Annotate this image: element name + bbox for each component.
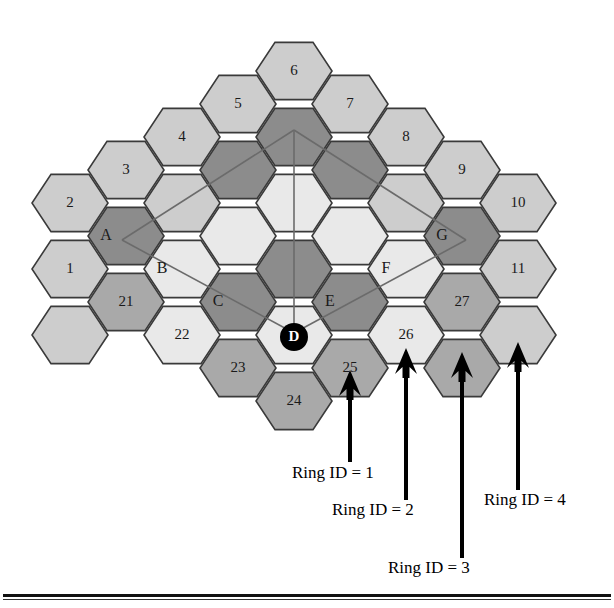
hexagon-number-label: 3 xyxy=(122,161,130,177)
hexagon-number-label: 7 xyxy=(346,95,354,111)
hexagon-number-label: 24 xyxy=(287,392,303,408)
hexagon-number-label: 1 xyxy=(66,260,74,276)
hexagon-number-label: 8 xyxy=(402,128,410,144)
hexagon-number-label: 11 xyxy=(511,260,525,276)
hexagon-number-label: 26 xyxy=(399,326,415,342)
hexagon-letter-label: C xyxy=(213,292,224,309)
hexagon-letter-label: E xyxy=(325,292,335,309)
center-cell-label: D xyxy=(289,328,300,344)
footer-rule xyxy=(3,594,611,597)
hexagon-number-label: 23 xyxy=(231,359,246,375)
hexagon-number-label: 2 xyxy=(66,194,74,210)
hexagon-number-label: 4 xyxy=(178,128,186,144)
hexagon-number-label: 25 xyxy=(343,359,358,375)
hexagon-letter-label: A xyxy=(100,226,112,243)
hexagon-number-label: 22 xyxy=(175,326,190,342)
hexagon-number-label: 10 xyxy=(511,194,526,210)
ring-id-label-ring2: Ring ID = 2 xyxy=(332,500,414,520)
hexagon-grid: 6574839210AG1BF1121CE2722D26232524 xyxy=(0,0,614,608)
ring-id-label-ring1: Ring ID = 1 xyxy=(292,463,374,483)
footer-rule-thin xyxy=(3,599,611,600)
hexagon-letter-label: B xyxy=(157,259,168,276)
hexagon-number-label: 27 xyxy=(455,293,471,309)
hexagon-letter-label: G xyxy=(436,226,448,243)
ring-id-label-ring3: Ring ID = 3 xyxy=(388,558,470,578)
hexagon-letter-label: F xyxy=(382,259,391,276)
hexagon-number-label: 9 xyxy=(458,161,466,177)
ring-id-label-ring4: Ring ID = 4 xyxy=(484,490,566,510)
hexagon-number-label: 5 xyxy=(234,95,242,111)
figure-canvas: 6574839210AG1BF1121CE2722D26232524 Ring … xyxy=(0,0,614,608)
hexagon-number-label: 6 xyxy=(290,62,298,78)
hexagon-number-label: 21 xyxy=(119,293,134,309)
